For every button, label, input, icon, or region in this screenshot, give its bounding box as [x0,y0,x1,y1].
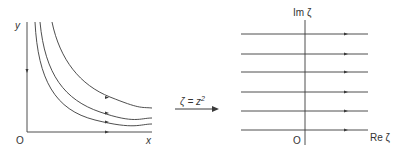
zeta-plane [241,20,368,145]
arrow-head-icon [344,53,348,56]
zeta-origin-label: O [293,136,301,146]
mapping-label-text: ζ = z [180,96,201,107]
hyperbola-inner [35,22,152,126]
arrow-head-icon [344,129,348,132]
z-plane-flow-arrows [26,69,110,134]
zeta-plane-flow-arrows [344,33,348,132]
arrow-head-icon [344,91,348,94]
arrow-head-icon [344,71,348,74]
arrow-head-icon [344,33,348,36]
arrow-head-icon [105,131,109,134]
re-axis-label: Re ζ [370,133,390,143]
z-origin-label: O [16,136,24,146]
arrow-head-icon [26,69,29,73]
hyperbola-middle [40,22,152,120]
arrow-head-icon [344,110,348,113]
mapping-label: ζ = z2 [180,95,205,107]
right-arrow-icon [212,106,219,112]
im-axis-label: Im ζ [293,8,311,18]
z-plane [27,22,152,132]
mapping-label-exponent: 2 [201,95,205,102]
conformal-map-diagram [0,0,407,155]
hyperbola-outer [52,22,152,108]
y-axis-label: y [15,21,20,31]
x-axis-label: x [146,136,151,146]
